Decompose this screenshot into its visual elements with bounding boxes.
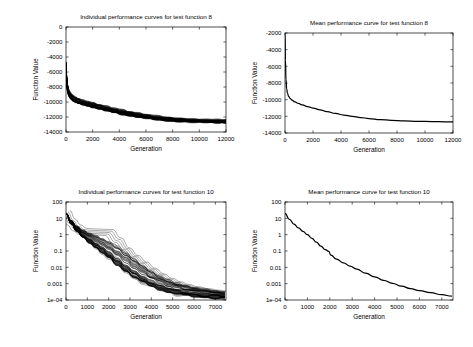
x-tick-label: 7000 <box>209 303 223 310</box>
y-axis-label: Function Value <box>251 61 258 104</box>
x-tick-label: 1000 <box>301 303 315 310</box>
performance-curve <box>66 62 226 121</box>
x-tick-label: 7000 <box>435 303 449 310</box>
performance-curve <box>66 62 226 121</box>
chart-panel-bottom-left: Individual performance curves for test f… <box>0 172 240 347</box>
performance-curve <box>66 62 226 120</box>
chart-svg-top-left: Individual performance curves for test f… <box>0 0 240 175</box>
y-tick-label: -6000 <box>266 63 282 70</box>
x-tick-label: 4000 <box>113 135 127 142</box>
x-tick-label: 3000 <box>123 303 137 310</box>
y-tick-label: 1e-04 <box>47 296 63 303</box>
y-tick-label: 100 <box>52 198 63 205</box>
curve-group <box>285 33 453 121</box>
performance-curve <box>66 213 225 298</box>
x-tick-label: 6000 <box>362 136 376 143</box>
y-tick-label: 0.01 <box>51 264 63 271</box>
chart-title: Individual performance curves for test f… <box>80 13 212 20</box>
performance-curve <box>66 66 226 123</box>
performance-curve <box>66 64 226 122</box>
x-tick-label: 2000 <box>86 135 100 142</box>
x-tick-label: 5000 <box>166 303 180 310</box>
performance-curve <box>66 64 226 122</box>
performance-curve <box>66 214 225 300</box>
performance-curve <box>66 64 226 122</box>
x-tick-label: 0 <box>64 135 68 142</box>
chart-svg-top-right: Mean performance curve for test function… <box>240 0 473 175</box>
x-tick-label: 10000 <box>191 135 209 142</box>
y-tick-label: -8000 <box>266 79 282 86</box>
y-tick-label: -14000 <box>263 129 283 136</box>
performance-curve <box>66 214 225 296</box>
y-tick-label: 0.001 <box>266 280 282 287</box>
y-tick-label: 0.01 <box>270 264 282 271</box>
x-tick-label: 0 <box>64 303 68 310</box>
plot-frame <box>285 202 453 300</box>
y-tick-label: -4000 <box>266 46 282 53</box>
mean-performance-curve <box>285 33 453 121</box>
mean-performance-curve <box>285 213 452 296</box>
performance-curve <box>66 213 225 295</box>
performance-curve <box>66 213 225 297</box>
performance-curve <box>66 213 225 298</box>
x-tick-label: 6000 <box>187 303 201 310</box>
performance-curve <box>66 213 225 296</box>
y-tick-label: -4000 <box>47 53 63 60</box>
chart-title: Individual performance curves for test f… <box>78 188 214 195</box>
performance-curve <box>66 214 225 299</box>
performance-curve <box>66 63 226 121</box>
performance-curve <box>66 62 226 121</box>
performance-curve <box>66 64 226 121</box>
performance-curve <box>66 66 226 123</box>
performance-curve <box>66 214 225 297</box>
performance-curve <box>66 63 226 121</box>
x-tick-label: 4000 <box>368 303 382 310</box>
performance-curve <box>66 214 225 300</box>
y-tick-label: -2000 <box>47 38 63 45</box>
y-tick-label: -10000 <box>44 98 64 105</box>
curve-group <box>285 213 452 296</box>
performance-curve <box>66 66 226 123</box>
performance-curve <box>66 213 225 298</box>
performance-curve <box>66 63 226 122</box>
curve-group <box>62 210 226 299</box>
performance-curve <box>66 63 226 122</box>
y-tick-label: 100 <box>271 198 282 205</box>
figure-panel-grid: Individual performance curves for test f… <box>0 0 473 347</box>
performance-curve <box>66 62 226 121</box>
performance-curve <box>66 214 225 299</box>
y-tick-label: 0.001 <box>47 280 63 287</box>
performance-curve <box>66 213 225 296</box>
performance-curve <box>66 214 225 296</box>
x-tick-label: 8000 <box>166 135 180 142</box>
x-tick-label: 10000 <box>417 136 435 143</box>
y-tick-label: 1 <box>278 231 282 238</box>
performance-curve <box>66 213 225 296</box>
x-tick-label: 2000 <box>323 303 337 310</box>
performance-curve <box>66 65 226 123</box>
chart-panel-top-left: Individual performance curves for test f… <box>0 0 240 175</box>
performance-curve <box>66 213 225 298</box>
x-axis-label: Generation <box>353 146 385 153</box>
x-tick-label: 4000 <box>334 136 348 143</box>
x-tick-label: 0 <box>283 136 287 143</box>
y-axis-label: Function Value <box>32 229 39 272</box>
y-tick-label: -12000 <box>44 113 64 120</box>
performance-curve <box>66 63 226 121</box>
chart-panel-bottom-right: Mean performance curve for test function… <box>240 172 473 347</box>
performance-curve <box>66 64 226 122</box>
chart-svg-bottom-right: Mean performance curve for test function… <box>240 172 473 347</box>
performance-curve <box>66 63 226 121</box>
y-axis-label: Function Value <box>251 229 258 272</box>
y-tick-label: 0.1 <box>273 247 282 254</box>
performance-curve <box>66 65 226 123</box>
performance-curve <box>66 214 225 299</box>
performance-curve <box>66 213 225 297</box>
x-tick-label: 2000 <box>102 303 116 310</box>
performance-curve <box>66 214 225 297</box>
performance-curve <box>66 66 226 123</box>
y-tick-label: -14000 <box>44 128 64 135</box>
y-axis-label: Function Value <box>32 58 39 101</box>
performance-curve <box>66 63 226 121</box>
x-axis-label: Generation <box>130 145 162 152</box>
